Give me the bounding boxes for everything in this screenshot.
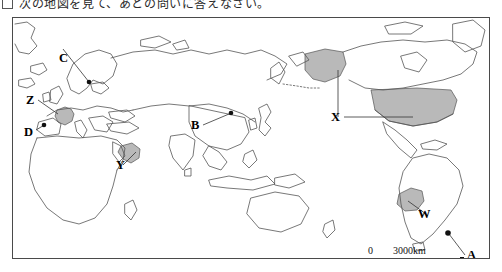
map-label-W: W xyxy=(418,208,431,221)
question-header: 次の地図を見て、あとの問いに答えなさい。 xyxy=(0,0,502,14)
coast-hudson-bay xyxy=(401,52,427,72)
coast-australia xyxy=(247,192,309,232)
city-dot-copenhagen xyxy=(87,80,92,85)
question-number-box xyxy=(2,0,13,9)
map-label-A-tick xyxy=(460,257,464,258)
city-dot-lisbon xyxy=(42,123,47,128)
map-label-A: A xyxy=(467,249,476,259)
map-label-B: B xyxy=(191,119,199,132)
world-map-svg xyxy=(13,18,487,256)
coast-russia-north xyxy=(111,50,287,80)
coast-indonesia xyxy=(209,176,275,190)
coast-baltic-sea xyxy=(91,82,109,94)
coast-north-africa xyxy=(37,136,125,170)
coast-mexico xyxy=(383,122,417,158)
coast-sri-lanka xyxy=(185,168,191,176)
coast-caribbean xyxy=(421,140,447,150)
coast-new-guinea xyxy=(275,174,305,188)
coast-korea xyxy=(249,118,257,130)
coast-africa xyxy=(29,138,117,224)
coast-iceland xyxy=(31,63,47,75)
coast-new-zealand xyxy=(323,220,335,238)
coast-british-isles xyxy=(50,86,63,104)
coast-greenland xyxy=(15,22,37,54)
scale-distance-label: 3000km xyxy=(393,245,426,256)
leader-line-B xyxy=(203,114,229,125)
coast-turkey xyxy=(107,122,139,134)
shaded-country-alaska xyxy=(305,49,346,82)
leader-line-A xyxy=(449,234,465,255)
coast-greenland-south xyxy=(19,78,35,88)
coast-italy xyxy=(75,120,87,138)
coast-greenland-right xyxy=(453,20,485,52)
coast-philippines xyxy=(243,150,257,168)
coast-canada xyxy=(343,40,477,90)
coast-ireland xyxy=(43,92,51,102)
map-label-X: X xyxy=(331,111,340,124)
coastline-outlines xyxy=(15,20,485,251)
shaded-countries-layer xyxy=(55,49,457,211)
label-leader-lines xyxy=(36,49,465,255)
coast-kamchatka xyxy=(271,62,285,84)
coast-aleutians xyxy=(283,84,321,88)
city-dot-buenos-aires xyxy=(445,230,451,236)
coast-japan xyxy=(259,104,271,136)
coast-india xyxy=(169,134,195,170)
leader-line-Z xyxy=(38,100,58,114)
map-label-Y: Y xyxy=(116,159,125,172)
coast-arctic-islands xyxy=(141,36,171,48)
map-label-C: C xyxy=(59,52,68,65)
world-map-figure: C Z D B Y X W A 0 3000km xyxy=(12,17,490,259)
shaded-country-usa xyxy=(371,88,457,126)
map-label-Z: Z xyxy=(26,94,34,107)
scale-zero-label: 0 xyxy=(368,245,373,256)
question-prompt-text: 次の地図を見て、あとの問いに答えなさい。 xyxy=(19,0,270,11)
coast-novaya-zemlya xyxy=(173,40,189,50)
coast-madagascar xyxy=(125,200,137,220)
coast-canada-islands xyxy=(385,22,423,34)
city-dot-beijing xyxy=(229,111,234,116)
map-label-D: D xyxy=(24,126,33,139)
